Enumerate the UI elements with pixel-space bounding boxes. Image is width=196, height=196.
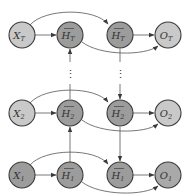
node-forward-hidden-1: H1 xyxy=(57,162,83,188)
backward-ellipsis: ⋮ xyxy=(115,68,126,81)
node-forward-hidden-T: HT xyxy=(57,22,83,48)
node-x-2: X2 xyxy=(9,100,35,126)
node-backward-hidden-1: H1 xyxy=(107,162,133,188)
node-output-1: O1 xyxy=(155,162,181,188)
bidirectional-rnn-diagram: ⋮ ⋮ XT HT HT OT X2 H2 xyxy=(0,0,196,196)
node-output-2: O2 xyxy=(155,100,181,126)
node-forward-hidden-2: H2 xyxy=(57,100,83,126)
node-backward-hidden-T: HT xyxy=(107,22,133,48)
edges xyxy=(30,12,158,193)
forward-ellipsis: ⋮ xyxy=(65,68,76,81)
diagram-canvas: ⋮ ⋮ XT HT HT OT X2 H2 xyxy=(0,0,196,196)
node-x-1: X1 xyxy=(9,162,35,188)
node-backward-hidden-2: H2 xyxy=(107,100,133,126)
node-x-T: XT xyxy=(9,22,35,48)
node-output-T: OT xyxy=(155,22,181,48)
nodes: XT HT HT OT X2 H2 H2 xyxy=(9,22,181,188)
